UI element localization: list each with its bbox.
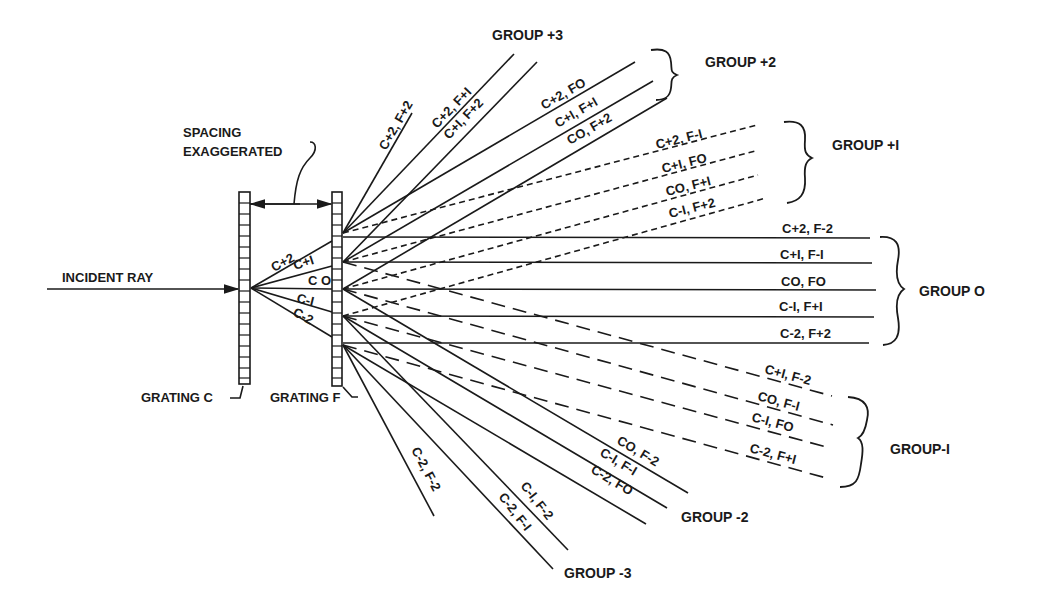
spacing-label-line2: EXAGGERATED <box>183 144 282 159</box>
c-order-label: C O <box>308 273 331 288</box>
ray-label: C+I, FO <box>660 150 708 176</box>
ray-label: C-2, F+2 <box>780 326 831 341</box>
group-zero-brace <box>880 237 904 345</box>
group-plus1-label: GROUP +I <box>832 137 899 153</box>
ray-label: CO, FO <box>781 274 826 289</box>
grating-c <box>239 192 250 384</box>
group-plus2-label: GROUP +2 <box>705 54 776 70</box>
group-zero-label: GROUP O <box>919 283 985 299</box>
group-plus1-brace <box>784 122 812 203</box>
ray-label: C+I, F-2 <box>763 361 813 388</box>
c-order-label: C+I <box>291 252 315 273</box>
ray-label: C-2, F-2 <box>408 444 444 493</box>
group-minus1-brace <box>840 397 868 487</box>
group-plus3-label: GROUP +3 <box>492 27 563 43</box>
grating-c-label: GRATING C <box>141 390 214 405</box>
ray-label: C+2, F-2 <box>782 221 833 236</box>
ray-label: C+2, F-I <box>654 126 704 152</box>
grating-f <box>332 192 342 386</box>
group-plus3-rays <box>343 54 537 262</box>
group-minus2-label: GROUP -2 <box>681 509 749 525</box>
ray-label: CO, F+I <box>664 173 712 199</box>
group-plus2-brace <box>651 50 677 101</box>
grating-c-leader <box>230 386 243 398</box>
grating-f-label: GRATING F <box>270 390 341 405</box>
group-minus3-label: GROUP -3 <box>564 565 632 581</box>
diagram-svg: INCIDENT RAY <box>0 0 1039 613</box>
ray-label: C-I, F+I <box>779 299 823 314</box>
ray-label: C+2, F+2 <box>376 98 416 152</box>
grating-f-leader <box>343 387 358 397</box>
group-minus1-label: GROUP-I <box>890 441 950 457</box>
diagram-canvas: INCIDENT RAY <box>0 0 1039 613</box>
incident-ray-label: INCIDENT RAY <box>62 270 154 285</box>
ray-label: C-I, F+2 <box>667 195 717 221</box>
spacing-label-line1: SPACING <box>183 125 241 140</box>
group-minus2-rays <box>343 289 688 524</box>
ray-label: C+I, F-I <box>780 247 824 262</box>
